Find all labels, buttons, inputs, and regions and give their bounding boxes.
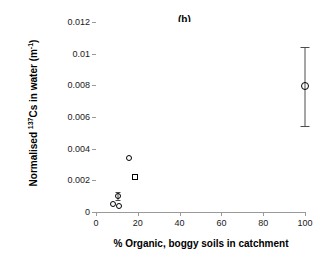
x-axis-line xyxy=(96,212,306,213)
y-axis-title: Normalised 137Cs in water (m-1) xyxy=(22,18,40,208)
x-tick-label: 20 xyxy=(133,218,143,228)
x-axis-title: % Organic, boggy soils in catchment xyxy=(96,238,306,249)
x-tick-mark xyxy=(138,212,139,216)
data-point-square xyxy=(132,174,138,180)
data-point-circle xyxy=(116,203,122,209)
y-tick-mark xyxy=(92,22,96,23)
x-tick-label: 0 xyxy=(93,218,98,228)
plot-area: 00.0020.0040.0060.0080.010.012 020406080… xyxy=(96,22,305,212)
data-point-circle xyxy=(126,155,132,161)
x-tick-mark xyxy=(96,212,97,216)
y-tick-mark xyxy=(92,117,96,118)
x-tick-label: 100 xyxy=(297,218,312,228)
y-tick-mark xyxy=(92,180,96,181)
y-tick-mark xyxy=(92,149,96,150)
data-point-circle xyxy=(110,201,116,207)
x-tick-label: 80 xyxy=(258,218,268,228)
x-tick-mark xyxy=(180,212,181,216)
y-tick-label: 0.012 xyxy=(67,17,90,27)
x-tick-mark xyxy=(263,212,264,216)
x-tick-mark xyxy=(221,212,222,216)
y-axis-title-unit-exponent: -1 xyxy=(27,43,34,49)
y-axis-title-suffix: ) xyxy=(28,40,39,43)
y-tick-label: 0 xyxy=(85,207,90,217)
figure-panel-b: (b) Normalised 137Cs in water (m-1) % Or… xyxy=(0,0,329,267)
y-tick-mark xyxy=(92,85,96,86)
x-tick-mark xyxy=(305,212,306,216)
data-point-circle xyxy=(115,193,121,199)
error-bar-cap-lower xyxy=(115,200,120,201)
y-axis-title-middle: Cs in water (m xyxy=(28,49,39,117)
error-bar-cap-lower xyxy=(301,126,310,127)
y-axis-title-prefix: Normalised xyxy=(28,129,39,186)
y-tick-label: 0.01 xyxy=(72,49,90,59)
x-tick-label: 40 xyxy=(175,218,185,228)
y-tick-label: 0.004 xyxy=(67,144,90,154)
y-tick-label: 0.008 xyxy=(67,80,90,90)
y-tick-label: 0.006 xyxy=(67,112,90,122)
data-point-circle xyxy=(301,82,309,90)
y-tick-label: 0.002 xyxy=(67,175,90,185)
x-tick-label: 60 xyxy=(216,218,226,228)
y-tick-mark xyxy=(92,54,96,55)
y-axis-title-isotope: 137 xyxy=(27,118,34,130)
error-bar-cap-upper xyxy=(301,47,310,48)
